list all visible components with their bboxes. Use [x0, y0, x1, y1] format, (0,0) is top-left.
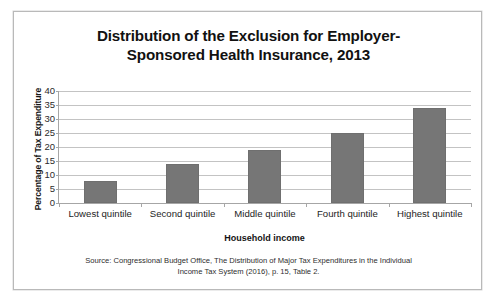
- y-tick-label: 0: [50, 198, 55, 208]
- plot-area: 0510152025303540 Lowest quintileSecond q…: [58, 91, 471, 204]
- x-tick-mark: [306, 203, 307, 207]
- y-tick-label: 20: [44, 142, 55, 152]
- x-tick-label: Fourth quintile: [317, 209, 378, 219]
- bar[interactable]: [413, 108, 446, 203]
- y-axis-title: Percentage of Tax Expenditure: [31, 84, 45, 214]
- x-tick-label: Lowest quintile: [68, 209, 131, 219]
- y-tick-label: 10: [44, 170, 55, 180]
- x-tick-mark: [224, 203, 225, 207]
- chart-title-line-1: Distribution of the Exclusion for Employ…: [34, 26, 463, 45]
- chart-title: Distribution of the Exclusion for Employ…: [34, 26, 463, 64]
- x-tick-label: Second quintile: [150, 209, 216, 219]
- x-tick-mark: [471, 203, 472, 207]
- bar-slot: [59, 91, 141, 203]
- x-tick-mark: [141, 203, 142, 207]
- x-tick-mark: [389, 203, 390, 207]
- bar-slot: [141, 91, 223, 203]
- x-tick-label: Middle quintile: [234, 209, 295, 219]
- bar-slot: [389, 91, 471, 203]
- figure-frame: Distribution of the Exclusion for Employ…: [13, 11, 482, 290]
- bar[interactable]: [248, 150, 281, 203]
- x-axis-title: Household income: [58, 233, 471, 243]
- x-tick-mark: [59, 203, 60, 207]
- source-note-line-2: Income Tax System (2016), p. 15, Table 2…: [44, 267, 453, 278]
- x-tick-label: Highest quintile: [397, 209, 463, 219]
- y-tick-label: 30: [44, 114, 55, 124]
- source-note-line-1: Source: Congressional Budget Office, The…: [44, 256, 453, 267]
- bar[interactable]: [331, 133, 364, 203]
- bar-slot: [224, 91, 306, 203]
- y-tick-label: 40: [44, 86, 55, 96]
- chart-title-line-2: Sponsored Health Insurance, 2013: [34, 45, 463, 64]
- y-tick-label: 15: [44, 156, 55, 166]
- y-tick-label: 5: [50, 184, 55, 194]
- y-tick-label: 35: [44, 100, 55, 110]
- y-axis-title-text: Percentage of Tax Expenditure: [33, 88, 43, 211]
- bar[interactable]: [166, 164, 199, 203]
- bar-slot: [306, 91, 388, 203]
- bar[interactable]: [84, 181, 117, 203]
- y-tick-label: 25: [44, 128, 55, 138]
- source-note: Source: Congressional Budget Office, The…: [44, 256, 453, 277]
